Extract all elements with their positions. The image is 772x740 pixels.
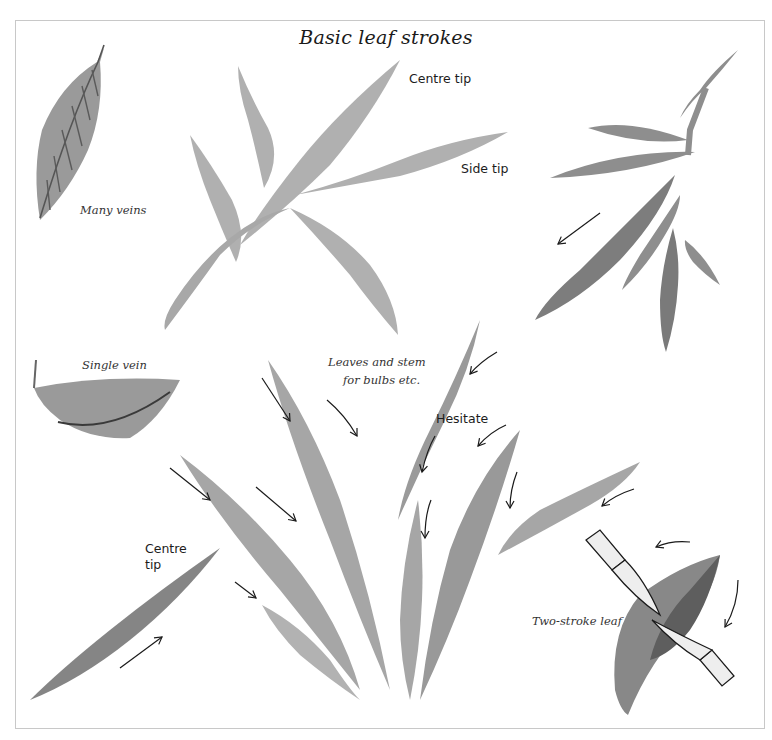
page-title: Basic leaf strokes [0,26,772,48]
label-single-vein: Single vein [82,357,147,374]
branch-leaves [535,50,738,352]
arrow-icon [558,213,600,244]
label-centre-tip-bottom-line2: tip [145,556,161,573]
bamboo-spray [164,60,508,335]
many-veins-leaf [36,45,104,220]
label-two-stroke-leaf: Two-stroke leaf [532,613,622,630]
label-centre-tip-bottom-line1: Centre [145,540,187,557]
label-centre-tip-top: Centre tip [409,70,471,87]
label-leaves-stem-line2: for bulbs etc. [343,372,420,389]
label-leaves-stem-line1: Leaves and stem [328,354,426,371]
centre-tip-leaf [30,548,220,700]
label-many-veins: Many veins [80,202,146,219]
label-side-tip: Side tip [461,160,508,177]
label-hesitate: Hesitate [436,410,488,427]
